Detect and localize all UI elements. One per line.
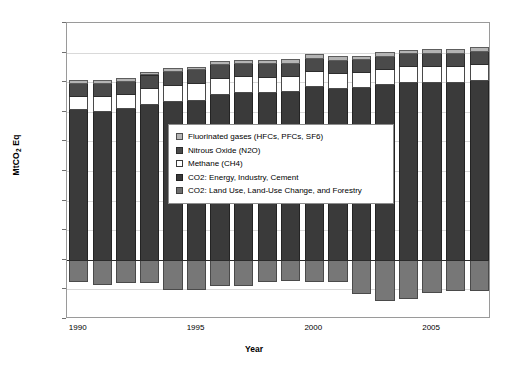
- bar-segment-negative[interactable]: [305, 260, 324, 282]
- bar-segment[interactable]: [187, 67, 206, 71]
- bar-segment[interactable]: [305, 54, 324, 59]
- bar-segment[interactable]: [422, 53, 441, 67]
- x-tick-label: 2000: [293, 323, 333, 332]
- y-axis-title: MtCO2 Eq: [11, 75, 21, 235]
- bar-segment[interactable]: [234, 76, 253, 93]
- bar-segment[interactable]: [163, 68, 182, 72]
- bar-segment[interactable]: [140, 75, 159, 89]
- bar-group[interactable]: [116, 23, 135, 317]
- bar-segment-negative[interactable]: [163, 260, 182, 290]
- bar-segment[interactable]: [281, 63, 300, 77]
- bar-segment[interactable]: [352, 59, 371, 73]
- bar-segment[interactable]: [93, 111, 112, 261]
- bar-segment[interactable]: [470, 47, 489, 52]
- bar-segment[interactable]: [93, 80, 112, 84]
- bar-segment-negative[interactable]: [470, 260, 489, 292]
- bar-segment[interactable]: [305, 71, 324, 87]
- bar-segment-negative[interactable]: [281, 260, 300, 281]
- legend-swatch-icon-fluorinated-gases: [176, 133, 183, 140]
- bar-segment-negative[interactable]: [399, 260, 418, 299]
- bar-segment[interactable]: [258, 60, 277, 65]
- bar-segment-negative[interactable]: [258, 260, 277, 282]
- bar-segment[interactable]: [399, 82, 418, 261]
- bar-segment[interactable]: [470, 51, 489, 65]
- bar-segment[interactable]: [375, 52, 394, 57]
- bar-segment[interactable]: [116, 81, 135, 95]
- bar-segment[interactable]: [69, 96, 88, 111]
- bar-segment[interactable]: [210, 61, 229, 65]
- bar-segment[interactable]: [422, 82, 441, 261]
- legend-label-co2-energy: CO2: Energy, Industry, Cement: [188, 173, 298, 182]
- x-tick-label: 1995: [176, 323, 216, 332]
- bar-segment-negative[interactable]: [446, 260, 465, 292]
- bar-segment-negative[interactable]: [69, 260, 88, 282]
- bar-segment[interactable]: [352, 56, 371, 61]
- legend-swatch-icon-methane: [176, 160, 183, 167]
- bar-segment[interactable]: [281, 76, 300, 92]
- bar-segment[interactable]: [470, 64, 489, 82]
- bar-segment[interactable]: [446, 49, 465, 54]
- legend-swatch-icon-co2-energy: [176, 174, 183, 181]
- x-axis-title: Year: [0, 344, 508, 354]
- bar-segment[interactable]: [140, 88, 159, 105]
- bar-group[interactable]: [422, 23, 441, 317]
- bar-segment[interactable]: [446, 66, 465, 84]
- bar-segment[interactable]: [210, 64, 229, 79]
- bar-segment[interactable]: [163, 71, 182, 86]
- bar-segment-negative[interactable]: [352, 260, 371, 294]
- bar-segment[interactable]: [328, 56, 347, 61]
- bar-group[interactable]: [399, 23, 418, 317]
- bar-group[interactable]: [93, 23, 112, 317]
- bar-segment[interactable]: [69, 109, 88, 260]
- bar-group[interactable]: [470, 23, 489, 317]
- bar-segment[interactable]: [352, 72, 371, 88]
- bar-segment[interactable]: [69, 80, 88, 84]
- bar-segment[interactable]: [281, 59, 300, 64]
- bar-segment[interactable]: [446, 82, 465, 260]
- bar-segment[interactable]: [93, 83, 112, 97]
- bar-group[interactable]: [69, 23, 88, 317]
- bar-group[interactable]: [140, 23, 159, 317]
- bar-segment[interactable]: [375, 56, 394, 70]
- bar-segment[interactable]: [187, 69, 206, 84]
- bar-segment[interactable]: [163, 85, 182, 103]
- bar-segment[interactable]: [116, 78, 135, 82]
- bar-segment[interactable]: [328, 60, 347, 74]
- bar-segment-negative[interactable]: [375, 260, 394, 301]
- bar-segment[interactable]: [187, 83, 206, 101]
- x-tick-label: 2005: [411, 323, 451, 332]
- bar-segment-negative[interactable]: [140, 260, 159, 283]
- bar-segment[interactable]: [328, 73, 347, 89]
- bar-segment[interactable]: [69, 83, 88, 97]
- bar-segment[interactable]: [210, 78, 229, 95]
- bar-segment[interactable]: [116, 108, 135, 261]
- bar-segment[interactable]: [375, 69, 394, 86]
- bar-segment[interactable]: [399, 66, 418, 83]
- x-tick-label: 1990: [58, 323, 98, 332]
- legend-item-nitrous-oxide: Nitrous Oxide (N2O): [176, 144, 387, 158]
- bar-segment[interactable]: [422, 66, 441, 83]
- bar-segment[interactable]: [116, 94, 135, 109]
- bar-segment[interactable]: [470, 80, 489, 260]
- bar-segment-negative[interactable]: [116, 260, 135, 284]
- bar-segment[interactable]: [234, 63, 253, 77]
- legend-label-co2-land-use: CO2: Land Use, Land-Use Change, and Fore…: [188, 186, 362, 195]
- bar-segment[interactable]: [399, 50, 418, 55]
- bar-group[interactable]: [446, 23, 465, 317]
- bar-segment[interactable]: [234, 60, 253, 64]
- bar-segment[interactable]: [399, 53, 418, 67]
- bar-segment-negative[interactable]: [234, 260, 253, 286]
- bar-segment-negative[interactable]: [210, 260, 229, 286]
- bar-segment-negative[interactable]: [422, 260, 441, 293]
- bar-segment-negative[interactable]: [93, 260, 112, 285]
- bar-segment-negative[interactable]: [328, 260, 347, 282]
- bar-segment-negative[interactable]: [187, 260, 206, 290]
- bar-segment[interactable]: [93, 96, 112, 112]
- bar-segment[interactable]: [140, 72, 159, 76]
- bar-segment[interactable]: [305, 58, 324, 72]
- bar-segment[interactable]: [140, 104, 159, 261]
- bar-segment[interactable]: [422, 49, 441, 54]
- bar-segment[interactable]: [258, 77, 277, 94]
- bar-segment[interactable]: [258, 63, 277, 77]
- bar-segment[interactable]: [446, 53, 465, 67]
